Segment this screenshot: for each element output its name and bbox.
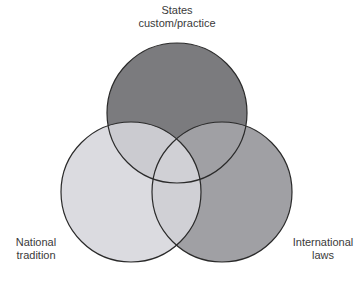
label-top-line-1: States	[127, 4, 227, 17]
label-national-tradition: National tradition	[6, 236, 66, 262]
label-left-line-1: National	[6, 236, 66, 249]
label-right-line-1: International	[283, 236, 363, 249]
label-left-line-2: tradition	[6, 249, 66, 262]
label-international-laws: International laws	[283, 236, 363, 262]
label-top-line-2: custom/practice	[127, 17, 227, 30]
circle-national-tradition	[61, 122, 201, 262]
label-right-line-2: laws	[283, 249, 363, 262]
label-states-custom-practice: States custom/practice	[127, 4, 227, 30]
